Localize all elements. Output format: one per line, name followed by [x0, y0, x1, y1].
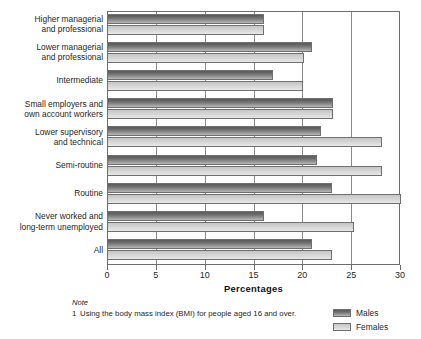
x-tick-label-10: 10	[190, 270, 220, 280]
category-label-1: Lower managerialand professional	[0, 42, 103, 62]
bar-females-0	[107, 25, 264, 35]
bar-males-1	[107, 42, 312, 52]
bar-males-6	[107, 183, 332, 193]
category-label-2: Intermediate	[0, 75, 103, 85]
category-label-8: All	[0, 245, 103, 255]
note-heading: Note	[72, 298, 322, 307]
bar-males-0	[107, 14, 264, 24]
note-block: Note 1Using the body mass index (BMI) fo…	[72, 298, 322, 318]
category-label-5: Semi-routine	[0, 160, 103, 170]
legend-swatch-males-icon	[333, 309, 351, 317]
legend-swatch-females-icon	[333, 323, 351, 331]
bar-males-3	[107, 98, 333, 108]
bar-males-8	[107, 239, 312, 249]
bar-males-2	[107, 70, 273, 80]
x-axis-title: Percentages	[107, 283, 400, 294]
bar-females-3	[107, 109, 333, 119]
bar-females-8	[107, 250, 332, 260]
legend-label-males: Males	[356, 308, 378, 318]
legend-item-males: Males	[333, 307, 421, 318]
bar-females-7	[107, 222, 354, 232]
category-label-0: Higher managerialand professional	[0, 14, 103, 34]
bar-females-1	[107, 53, 304, 63]
legend-label-females: Females	[356, 322, 388, 332]
bar-females-5	[107, 166, 382, 176]
bar-row	[107, 209, 400, 237]
x-tick-label-20: 20	[287, 270, 317, 280]
bar-females-4	[107, 137, 382, 147]
x-tick-label-15: 15	[239, 270, 269, 280]
x-tick-label-25: 25	[336, 270, 366, 280]
x-tick-label-5: 5	[141, 270, 171, 280]
note-item-number: 1	[72, 309, 80, 318]
category-label-7: Never worked andlong-term unemployed	[0, 211, 103, 231]
bar-row	[107, 237, 400, 265]
bar-row	[107, 152, 400, 180]
bar-males-7	[107, 211, 264, 221]
bar-row	[107, 39, 400, 67]
bar-row	[107, 124, 400, 152]
legend: Males Females	[333, 307, 421, 335]
x-tick-label-0: 0	[92, 270, 122, 280]
legend-item-females: Females	[333, 321, 421, 332]
bar-row	[107, 96, 400, 124]
x-axis-tick-labels: 051015202530	[0, 270, 421, 282]
note-item: 1Using the body mass index (BMI) for peo…	[72, 309, 322, 318]
bar-rows	[107, 11, 400, 265]
category-label-3: Small employers andown account workers	[0, 99, 103, 119]
bar-females-2	[107, 81, 303, 91]
chart-container: Higher managerialand professionalLower m…	[0, 0, 421, 339]
x-tick-label-30: 30	[385, 270, 415, 280]
bar-row	[107, 11, 400, 39]
note-item-text: Using the body mass index (BMI) for peop…	[80, 309, 296, 318]
bar-males-5	[107, 155, 317, 165]
category-label-4: Lower supervisoryand technical	[0, 127, 103, 147]
bar-females-6	[107, 194, 401, 204]
bar-row	[107, 67, 400, 95]
bar-males-4	[107, 126, 321, 136]
category-label-6: Routine	[0, 188, 103, 198]
bar-row	[107, 180, 400, 208]
category-axis-labels: Higher managerialand professionalLower m…	[0, 11, 103, 265]
